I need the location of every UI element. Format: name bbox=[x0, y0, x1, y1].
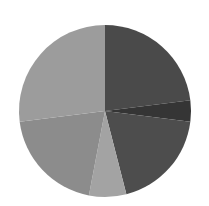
pie-slice-1 bbox=[105, 25, 190, 111]
pie-slices bbox=[19, 25, 191, 197]
pie-chart bbox=[0, 0, 209, 206]
pie-slice-6 bbox=[19, 25, 105, 122]
